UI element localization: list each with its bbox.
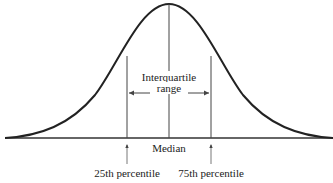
iqr-label-line2: range bbox=[150, 82, 188, 94]
arrowhead-left-icon bbox=[129, 91, 134, 96]
p75-label: 75th percentile bbox=[171, 167, 251, 179]
p25-label: 25th percentile bbox=[87, 167, 167, 179]
arrowhead-right-icon bbox=[204, 91, 209, 96]
median-label: Median bbox=[139, 142, 199, 154]
arrowhead-up-icon bbox=[125, 144, 128, 148]
arrowhead-up-icon bbox=[209, 144, 212, 148]
